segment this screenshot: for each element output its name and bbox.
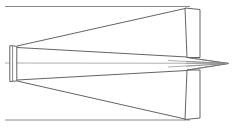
ray-diagram-figure: Optical ray trace diagram Line drawing o… [0, 0, 232, 131]
left-aperture-element [10, 46, 17, 82]
upper-panel-element [185, 8, 200, 58]
lower-panel-element [185, 70, 200, 120]
ray-diagram-canvas: Optical ray trace diagram Line drawing o… [0, 0, 232, 131]
